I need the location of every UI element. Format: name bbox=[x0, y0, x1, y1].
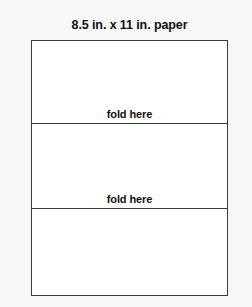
fold-here-label-first: fold here bbox=[32, 108, 227, 121]
paper-panel-middle: fold here bbox=[32, 124, 227, 209]
paper-panel-top: fold here bbox=[32, 41, 227, 124]
paper-panel-bottom bbox=[32, 209, 227, 294]
diagram-caption: 8.5 in. x 11 in. paper bbox=[31, 17, 228, 33]
paper-folding-diagram: 8.5 in. x 11 in. paper fold here fold he… bbox=[0, 0, 252, 307]
fold-here-label-second: fold here bbox=[32, 193, 227, 206]
paper-sheet-outline: fold here fold here bbox=[31, 40, 228, 296]
